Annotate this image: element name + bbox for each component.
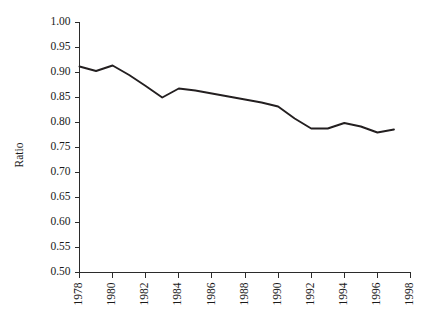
x-tick-label: 1986 bbox=[205, 282, 217, 305]
x-axis: 1978198019821984198619881990199219941996… bbox=[72, 273, 415, 306]
y-tick-label: 0.55 bbox=[50, 240, 70, 252]
y-tick-label: 0.70 bbox=[50, 165, 70, 177]
x-tick-label: 1998 bbox=[403, 282, 415, 305]
y-tick-label: 0.65 bbox=[50, 190, 70, 202]
y-tick-label: 0.85 bbox=[50, 90, 70, 102]
y-tick-label: 0.90 bbox=[50, 65, 70, 77]
x-tick-label: 1982 bbox=[138, 282, 150, 305]
x-tick-label: 1994 bbox=[337, 282, 349, 305]
x-tick-label: 1996 bbox=[370, 282, 382, 305]
y-tick-label: 0.50 bbox=[50, 265, 70, 277]
y-tick-label: 0.95 bbox=[50, 40, 70, 52]
x-tick-label: 1984 bbox=[171, 282, 183, 305]
line-chart: 0.500.550.600.650.700.750.800.850.900.95… bbox=[0, 0, 425, 323]
y-tick-label: 1.00 bbox=[50, 15, 70, 27]
x-tick-label: 1990 bbox=[271, 282, 283, 305]
y-tick-label: 0.75 bbox=[50, 140, 70, 152]
x-tick-label: 1978 bbox=[72, 282, 84, 305]
x-tick-label: 1988 bbox=[238, 282, 250, 305]
x-tick-label: 1992 bbox=[304, 282, 316, 305]
series-line-ratio bbox=[80, 66, 394, 133]
y-axis-title: Ratio bbox=[13, 142, 25, 167]
y-tick-label: 0.80 bbox=[50, 115, 70, 127]
y-axis: 0.500.550.600.650.700.750.800.850.900.95… bbox=[50, 15, 79, 277]
x-tick-label: 1980 bbox=[105, 282, 117, 305]
y-tick-label: 0.60 bbox=[50, 215, 70, 227]
chart-page: 0.500.550.600.650.700.750.800.850.900.95… bbox=[0, 0, 425, 323]
data-series-group bbox=[80, 66, 394, 133]
